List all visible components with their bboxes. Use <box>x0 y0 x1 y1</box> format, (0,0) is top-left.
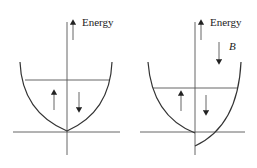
right-panel: Energy B <box>140 16 245 155</box>
right-energy-label: Energy <box>210 16 242 28</box>
right-spin-down-parabola <box>195 62 241 146</box>
left-energy-label: Energy <box>82 16 114 28</box>
magnetic-field-label: B <box>229 40 236 52</box>
left-parabola <box>20 62 112 131</box>
right-spin-up-parabola <box>148 62 195 133</box>
spin-band-diagram: Energy Energy B <box>0 0 257 168</box>
left-panel: Energy <box>13 16 120 155</box>
